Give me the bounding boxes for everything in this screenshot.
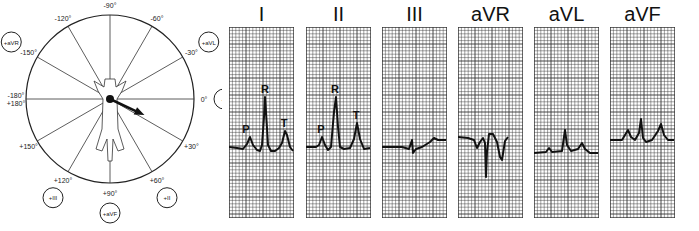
- lead-label: III: [382, 3, 447, 25]
- svg-text:-180°: -180°: [8, 92, 25, 99]
- svg-text:-90°: -90°: [104, 2, 117, 9]
- svg-text:R: R: [331, 83, 339, 95]
- ecg-strip-lead-avl: aVL: [534, 27, 599, 218]
- hexaxial-diagram: -90°-60°-30°0°+30°+60°+90°+120°+150°-180…: [0, 0, 222, 231]
- lead-label: aVL: [534, 3, 599, 25]
- ecg-grid: PRT: [306, 27, 371, 218]
- svg-text:-60°: -60°: [151, 15, 164, 22]
- ecg-strip-lead-i: I PRT: [229, 27, 294, 218]
- svg-text:-120°: -120°: [55, 15, 72, 22]
- lead-label: aVR: [458, 3, 523, 25]
- lead-label: II: [306, 3, 371, 25]
- hexaxial-reference-system: -90°-60°-30°0°+30°+60°+90°+120°+150°-180…: [0, 0, 222, 231]
- svg-text:+120°: +120°: [54, 177, 73, 184]
- svg-text:P: P: [242, 123, 249, 135]
- svg-text:+60°: +60°: [150, 177, 165, 184]
- lead-label: I: [229, 3, 294, 25]
- svg-text:+aVF: +aVF: [103, 211, 118, 217]
- lead-label: aVF: [610, 3, 675, 25]
- ecg-strip-lead-avf: aVF: [610, 27, 675, 218]
- svg-text:+150°: +150°: [19, 143, 38, 150]
- ecg-grid: [610, 27, 675, 218]
- svg-text:+II: +II: [164, 195, 171, 201]
- svg-text:+90°: +90°: [103, 190, 118, 197]
- svg-text:T: T: [353, 109, 360, 121]
- svg-text:+I: +I: [221, 97, 222, 103]
- ecg-strip-lead-ii: II PRT: [306, 27, 371, 218]
- ecg-grid: [458, 27, 523, 218]
- ecg-grid: [534, 27, 599, 218]
- svg-text:+III: +III: [49, 195, 58, 201]
- svg-text:T: T: [281, 117, 288, 129]
- svg-text:0°: 0°: [201, 96, 208, 103]
- ecg-grid: [382, 27, 447, 218]
- svg-text:-30°: -30°: [185, 49, 198, 56]
- ecg-strip-lead-avr: aVR: [458, 27, 523, 218]
- svg-text:+180°: +180°: [7, 100, 26, 107]
- svg-text:+aVL: +aVL: [202, 40, 217, 46]
- svg-text:-150°: -150°: [20, 49, 37, 56]
- svg-text:+30°: +30°: [184, 143, 199, 150]
- svg-text:+aVR: +aVR: [4, 40, 20, 46]
- svg-text:P: P: [317, 123, 324, 135]
- svg-text:R: R: [261, 83, 269, 95]
- ecg-grid: PRT: [229, 27, 294, 218]
- ecg-strip-lead-iii: III: [382, 27, 447, 218]
